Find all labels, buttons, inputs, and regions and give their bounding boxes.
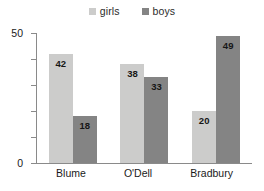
x-axis-label-blume: Blume bbox=[56, 167, 86, 179]
y-axis-label-50: 50 bbox=[11, 28, 23, 38]
y-tick-10 bbox=[31, 137, 36, 138]
y-tick-0: 0 bbox=[31, 163, 36, 164]
x-axis-label-odell: O'Dell bbox=[124, 167, 152, 179]
legend-label-boys: boys bbox=[153, 6, 176, 17]
bar-chart: girls boys 50 0 42 18 bbox=[0, 0, 264, 191]
y-axis-label-0: 0 bbox=[17, 158, 23, 168]
bar-blume-boys[interactable]: 18 bbox=[73, 116, 97, 163]
bar-bradbury-girls[interactable]: 20 bbox=[192, 111, 216, 163]
y-tick-20 bbox=[31, 111, 36, 112]
bar-value-odell-girls: 38 bbox=[127, 69, 138, 79]
legend-swatch-girls-icon bbox=[89, 8, 96, 15]
legend-item-boys: boys bbox=[142, 6, 176, 17]
x-axis-label-bradbury: Bradbury bbox=[190, 167, 233, 179]
legend-swatch-boys-icon bbox=[142, 8, 149, 15]
bar-odell-girls[interactable]: 38 bbox=[120, 64, 144, 163]
bar-value-bradbury-boys: 49 bbox=[223, 41, 234, 51]
bar-group-bradbury: 20 49 bbox=[192, 33, 240, 163]
bar-blume-girls[interactable]: 42 bbox=[49, 54, 73, 163]
bar-group-odell: 38 33 bbox=[120, 33, 168, 163]
bar-value-blume-boys: 18 bbox=[80, 121, 91, 131]
bar-group-blume: 42 18 bbox=[49, 33, 97, 163]
y-tick-50: 50 bbox=[31, 33, 36, 34]
bar-groups: 42 18 38 33 20 49 bbox=[37, 33, 252, 163]
bar-bradbury-boys[interactable]: 49 bbox=[216, 36, 240, 163]
legend-label-girls: girls bbox=[100, 6, 120, 17]
plot-area: 50 0 42 18 38 33 bbox=[36, 33, 252, 164]
bar-value-blume-girls: 42 bbox=[56, 59, 67, 69]
x-axis-labels: Blume O'Dell Bradbury bbox=[37, 167, 252, 179]
y-tick-40 bbox=[31, 59, 36, 60]
bar-value-bradbury-girls: 20 bbox=[199, 116, 210, 126]
x-axis-line bbox=[36, 163, 252, 164]
bar-odell-boys[interactable]: 33 bbox=[144, 77, 168, 163]
y-tick-30 bbox=[31, 85, 36, 86]
chart-legend: girls boys bbox=[0, 6, 264, 17]
bar-value-odell-boys: 33 bbox=[151, 82, 162, 92]
legend-item-girls: girls bbox=[89, 6, 120, 17]
